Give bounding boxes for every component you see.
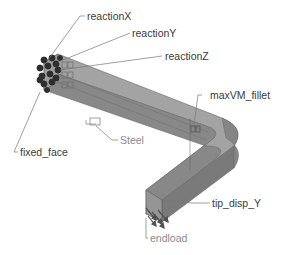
label-reactionY[interactable]: reactionY: [132, 27, 176, 39]
material-icon: [86, 118, 100, 125]
label-maxVM-fillet[interactable]: maxVM_fillet: [210, 89, 270, 101]
label-tip-disp-Y[interactable]: tip_disp_Y: [212, 197, 261, 209]
label-steel[interactable]: Steel: [120, 134, 144, 146]
label-reactionZ[interactable]: reactionZ: [165, 50, 209, 62]
edge-line: [58, 74, 208, 132]
label-endload[interactable]: endload: [150, 232, 187, 244]
label-reactionX[interactable]: reactionX: [87, 10, 131, 22]
label-fixed-face[interactable]: fixed_face: [20, 146, 68, 158]
